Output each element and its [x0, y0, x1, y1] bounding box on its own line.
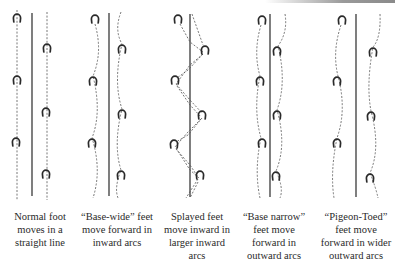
caption-line: forward in: [234, 236, 314, 249]
right-foot-path-base-wide: [117, 12, 122, 198]
caption-line: move forward in: [72, 223, 162, 236]
caption-line: “Base-wide” feet: [72, 210, 162, 223]
caption-line: Splayed feet: [152, 210, 242, 223]
caption-line: larger inward: [152, 236, 242, 249]
horseshoe-icon: [89, 77, 96, 85]
right-foot-path-pigeon-toed: [369, 14, 380, 198]
caption-pigeon-toed: “Pigeon-Toed” feet move forward in wider…: [314, 210, 395, 259]
horseshoe-icon: [258, 16, 265, 24]
horseshoe-icon: [273, 111, 280, 119]
horseshoe-icon: [42, 170, 49, 178]
caption-line: forward in wider: [314, 236, 395, 249]
caption-normal: Normal foot moves in a straight line: [0, 210, 80, 249]
horseshoe-icon: [91, 15, 98, 23]
horseshoe-icon: [369, 48, 376, 56]
horseshoe-icon: [333, 139, 340, 147]
caption-line: “Pigeon-Toed”: [314, 210, 395, 223]
horseshoe-icon: [333, 77, 340, 85]
horseshoe-icon: [256, 77, 263, 85]
horseshoe-icon: [117, 171, 124, 179]
caption-line: arcs: [152, 249, 242, 259]
horseshoe-icon: [367, 112, 374, 120]
horseshoe-icon: [338, 16, 345, 24]
horseshoe-icon: [273, 47, 280, 55]
horse-gait-diagram: Normal foot moves in a straight line “Ba…: [0, 0, 395, 259]
horseshoe-icon: [196, 171, 203, 179]
caption-line: feet move: [234, 223, 314, 236]
horseshoe-icon: [201, 46, 208, 54]
left-foot-path-base-narrow: [257, 25, 261, 198]
caption-base-narrow: “Base narrow” feet move forward in outwa…: [234, 210, 314, 259]
left-foot-path-base-wide: [92, 24, 99, 198]
right-foot-path-base-narrow: [276, 14, 286, 198]
caption-line: move inward in: [152, 223, 242, 236]
caption-line: straight line: [0, 236, 80, 249]
horseshoe-icon: [88, 139, 95, 147]
gait-illustration: [0, 0, 395, 205]
caption-line: “Base narrow”: [234, 210, 314, 223]
horseshoe-icon: [174, 15, 181, 23]
horseshoe-icon: [366, 174, 373, 182]
horseshoe-icon: [171, 76, 178, 84]
caption-line: outward arcs: [234, 249, 314, 259]
caption-line: outward arcs: [314, 249, 395, 259]
horseshoe-icon: [118, 45, 125, 53]
caption-base-wide: “Base-wide” feet move forward in inward …: [72, 210, 162, 249]
caption-line: moves in a: [0, 223, 80, 236]
caption-line: Normal foot: [0, 210, 80, 223]
horseshoe-icon: [258, 139, 265, 147]
horseshoe-icon: [170, 140, 177, 148]
caption-splayed: Splayed feet move inward in larger inwar…: [152, 210, 242, 259]
horseshoe-icon: [118, 110, 125, 118]
horseshoe-icon: [42, 108, 49, 116]
left-foot-path-pigeon-toed: [333, 25, 343, 198]
caption-line: feet move: [314, 223, 395, 236]
caption-line: inward arcs: [72, 236, 162, 249]
horseshoe-icon: [12, 138, 19, 146]
